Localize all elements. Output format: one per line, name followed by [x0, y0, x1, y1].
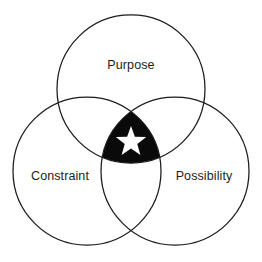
label-purpose: Purpose [107, 59, 154, 72]
label-possibility: Possibility [176, 170, 233, 183]
venn-diagram-canvas [0, 0, 262, 262]
label-constraint: Constraint [31, 170, 89, 183]
venn-diagram: Purpose Constraint Possibility [0, 0, 262, 262]
